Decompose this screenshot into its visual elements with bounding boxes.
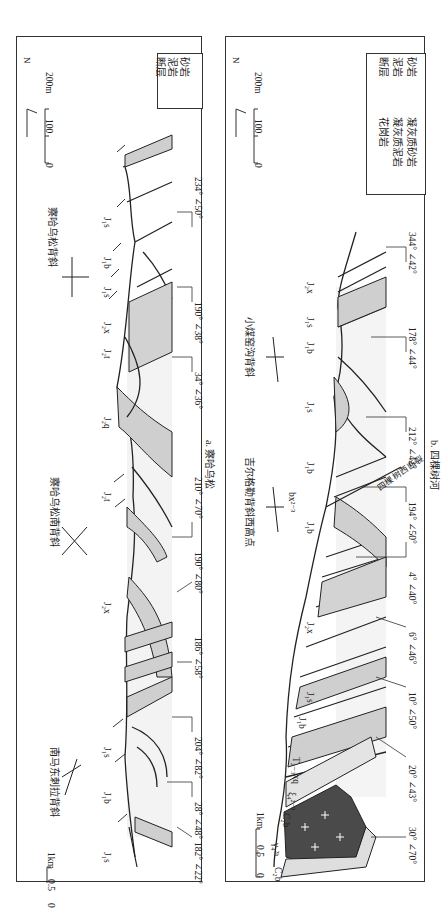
north-arrow-a: N (22, 57, 31, 64)
attitude-label: 6° ∠46° (407, 632, 417, 664)
legend-b-mudstone: 泥岩 (392, 57, 402, 77)
stratum-label: J₁b (297, 717, 307, 729)
attitude-label: 210° ∠70° (193, 477, 203, 519)
hscale-b-start: 0 (255, 873, 265, 878)
north-arrow-b: N (231, 57, 240, 64)
vscale-b-mid: 100 (253, 119, 263, 133)
stratum-label: J₂x (305, 282, 315, 294)
stratum-label: J₂x (305, 622, 315, 634)
cross-section-panel-b: 砂岩 泥岩 断层 凝灰质砂岩 凝灰质泥岩 花岗岩 N 200m 100 0 1k… (225, 36, 425, 882)
stratum-label: J₁b (102, 257, 112, 269)
stratum-label: J₂t (102, 492, 112, 502)
attitude-label: 30° ∠70° (407, 827, 417, 864)
stratum-label: J₁b (305, 522, 315, 534)
attitude-label: 178° ∠44° (407, 327, 417, 369)
stratum-label: J₁s (102, 217, 112, 228)
attitude-label: 190° ∠80° (193, 552, 203, 594)
vscale-a-top: 200m (44, 72, 54, 94)
hscale-a-start: 0 (46, 903, 56, 908)
hscale-a-end: 1km (46, 852, 56, 869)
legend-b-tuff-sand: 凝灰质砂岩 (406, 117, 416, 167)
stratum-label: J₁s (305, 317, 315, 328)
fold-name-3: 南马东刺拉背斜 (49, 747, 59, 817)
stratum-label: J₂q (102, 417, 112, 429)
stratum-label: J₁s (102, 287, 112, 298)
stratum-label: J₂t (102, 349, 112, 359)
stratum-label: J₁s (102, 747, 112, 758)
hscale-b-end: 1km (255, 812, 265, 829)
legend-a-fault: 断层 (155, 57, 165, 77)
stratum-label: C₂b (281, 813, 291, 827)
vscale-a-bottom: 0 (44, 163, 54, 168)
legend-b-granite: 花岗岩 (378, 117, 388, 147)
stratum-label: J₁s (305, 402, 315, 413)
caption-a: a. 察哈乌松 (203, 440, 218, 489)
stratum-label: γ₄²ᵇ (271, 843, 281, 856)
stratum-label: J₁b (102, 792, 112, 804)
attitude-label: 20° ∠43° (407, 765, 417, 802)
stratum-label: ξ₄²⁻³ (287, 792, 297, 810)
stratum-label: J₂x (102, 322, 112, 334)
legend-b-fault: 断层 (378, 57, 388, 77)
stratum-label: C₂b (273, 867, 283, 881)
attitude-label: 182° ∠22° (193, 842, 203, 884)
attitude-label: 186° ∠58° (193, 637, 203, 679)
attitude-label: 190° ∠38° (193, 302, 203, 344)
attitude-label: 10° ∠50° (407, 692, 417, 729)
attitude-label: 28° ∠48° (193, 802, 203, 839)
hscale-b-mid: 0.5 (255, 845, 265, 857)
stratum-label: J₁b (305, 462, 315, 474)
fold-name-b2: 吉尔格勒背斜西高点 (244, 457, 254, 547)
stratum-label: T₂₋₃xq (291, 757, 301, 784)
attitude-label: 234° ∠50° (193, 177, 203, 219)
attitude-label: 212° ∠42° (407, 427, 417, 469)
stratum-label: J₁s (305, 692, 315, 703)
fold-name-2: 察哈乌松南背斜 (49, 477, 59, 547)
hscale-a-mid: 0.5 (46, 879, 56, 891)
fold-name-b1: 小煤窑沟背斜 (244, 317, 254, 377)
vscale-b-bottom: 0 (253, 163, 263, 168)
legend-b-tuff-mud: 凝灰质泥岩 (392, 117, 402, 167)
stratum-label: J₁b (305, 342, 315, 354)
attitude-label: 344° ∠42° (407, 232, 417, 274)
legend-a-sandstone: 砂岩 (179, 57, 189, 77)
attitude-label: 4° ∠40° (407, 572, 417, 604)
attitude-label: 34° ∠36° (193, 372, 203, 409)
vscale-a-mid: 100 (44, 119, 54, 133)
vscale-b-top: 200m (253, 72, 263, 94)
fold-name-1: 察哈乌松背斜 (47, 207, 57, 267)
attitude-label: 194° ∠50° (407, 502, 417, 544)
legend-a-mudstone: 泥岩 (167, 57, 177, 77)
cross-section-panel-a: 砂岩 泥岩 断层 N 200m 100 0 1km 0.5 0 察哈乌松背斜 察… (16, 36, 202, 882)
legend-b-sandstone: 砂岩 (406, 57, 416, 77)
attitude-label: 204° ∠82° (193, 737, 203, 779)
stratum-label: J₂x (102, 602, 112, 614)
stratum-label: bx²⁻³ (287, 492, 297, 512)
caption-b: b. 四棵树河 (428, 440, 443, 490)
stratum-label: J₁s (102, 852, 112, 863)
